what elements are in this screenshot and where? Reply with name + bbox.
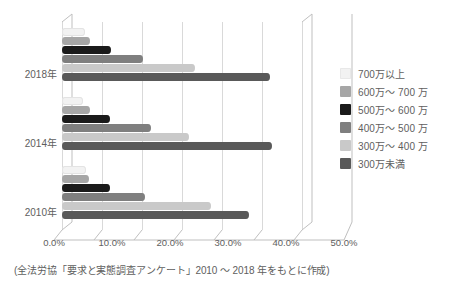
- bar-row: [62, 28, 312, 36]
- bar-row: [62, 175, 312, 183]
- bar: [62, 124, 151, 132]
- legend-label: 600万〜 700 万: [358, 84, 428, 99]
- chart-caption: (全法労協「要求と実態調査アンケート」2010 〜 2018 年をもとに作成): [14, 262, 330, 277]
- bar-row: [62, 37, 312, 45]
- bar-row: [62, 166, 312, 174]
- bar: [62, 202, 211, 210]
- bar: [62, 175, 89, 183]
- x-axis-tick: 50.0%: [331, 237, 358, 248]
- bar: [62, 97, 83, 105]
- bar-row: [62, 64, 312, 72]
- legend-swatch-icon: [340, 86, 351, 97]
- bar-row: [62, 106, 312, 114]
- bar-row: [62, 184, 312, 192]
- bar-group-2018: [62, 28, 312, 82]
- legend-label: 400万〜 500 万: [358, 120, 428, 135]
- bar: [62, 193, 145, 201]
- bar: [62, 55, 143, 63]
- legend-label: 700万以上: [358, 66, 405, 81]
- legend-label: 500万〜 600 万: [358, 102, 428, 117]
- bar: [62, 106, 90, 114]
- legend-label: 300万〜 400 万: [358, 138, 428, 153]
- plot-area: [62, 22, 312, 230]
- bar-row: [62, 211, 312, 219]
- y-axis-label: 2018年: [11, 66, 57, 81]
- bar-row: [62, 193, 312, 201]
- bar: [62, 46, 111, 54]
- bar: [62, 64, 195, 72]
- bar-row: [62, 97, 312, 105]
- bar-row: [62, 55, 312, 63]
- legend-item[interactable]: 700万以上: [340, 64, 458, 82]
- bar: [62, 133, 189, 141]
- bar: [62, 73, 270, 81]
- bar-group-2014: [62, 97, 312, 151]
- bar-group-2010: [62, 166, 312, 220]
- bar: [62, 37, 90, 45]
- x-axis-tick: 20.0%: [157, 237, 184, 248]
- x-axis-tick: 0.0%: [43, 237, 65, 248]
- legend-item[interactable]: 500万〜 600 万: [340, 100, 458, 118]
- bar: [62, 211, 249, 219]
- legend-item[interactable]: 400万〜 500 万: [340, 118, 458, 136]
- y-axis-labels: 2018年 2014年 2010年: [0, 22, 57, 230]
- bar-row: [62, 133, 312, 141]
- y-axis-label: 2014年: [11, 135, 57, 150]
- x-axis-tick: 10.0%: [99, 237, 126, 248]
- bar: [62, 184, 110, 192]
- legend-swatch-icon: [340, 104, 351, 115]
- y-axis-label: 2010年: [11, 204, 57, 219]
- legend-item[interactable]: 300万〜 400 万: [340, 136, 458, 154]
- bar: [62, 142, 272, 150]
- bar-row: [62, 142, 312, 150]
- legend-swatch-icon: [340, 122, 351, 133]
- x-axis-tick: 40.0%: [273, 237, 300, 248]
- bar: [62, 28, 85, 36]
- bar-row: [62, 115, 312, 123]
- chart-legend: 700万以上600万〜 700 万500万〜 600 万400万〜 500 万3…: [340, 64, 458, 172]
- legend-swatch-icon: [340, 68, 351, 79]
- x-axis-tick: 30.0%: [215, 237, 242, 248]
- legend-label: 300万未満: [358, 156, 405, 171]
- bar-row: [62, 73, 312, 81]
- legend-swatch-icon: [340, 140, 351, 151]
- bar-row: [62, 124, 312, 132]
- bar: [62, 115, 110, 123]
- legend-item[interactable]: 600万〜 700 万: [340, 82, 458, 100]
- bar-row: [62, 46, 312, 54]
- legend-item[interactable]: 300万未満: [340, 154, 458, 172]
- bar-chart: 2018年 2014年 2010年 0.0% 10.0% 20.0% 30.0%…: [0, 0, 460, 287]
- x-axis-ticks: 0.0% 10.0% 20.0% 30.0% 40.0% 50.0%: [0, 237, 460, 253]
- legend-swatch-icon: [340, 158, 351, 169]
- bar: [62, 166, 86, 174]
- bar-row: [62, 202, 312, 210]
